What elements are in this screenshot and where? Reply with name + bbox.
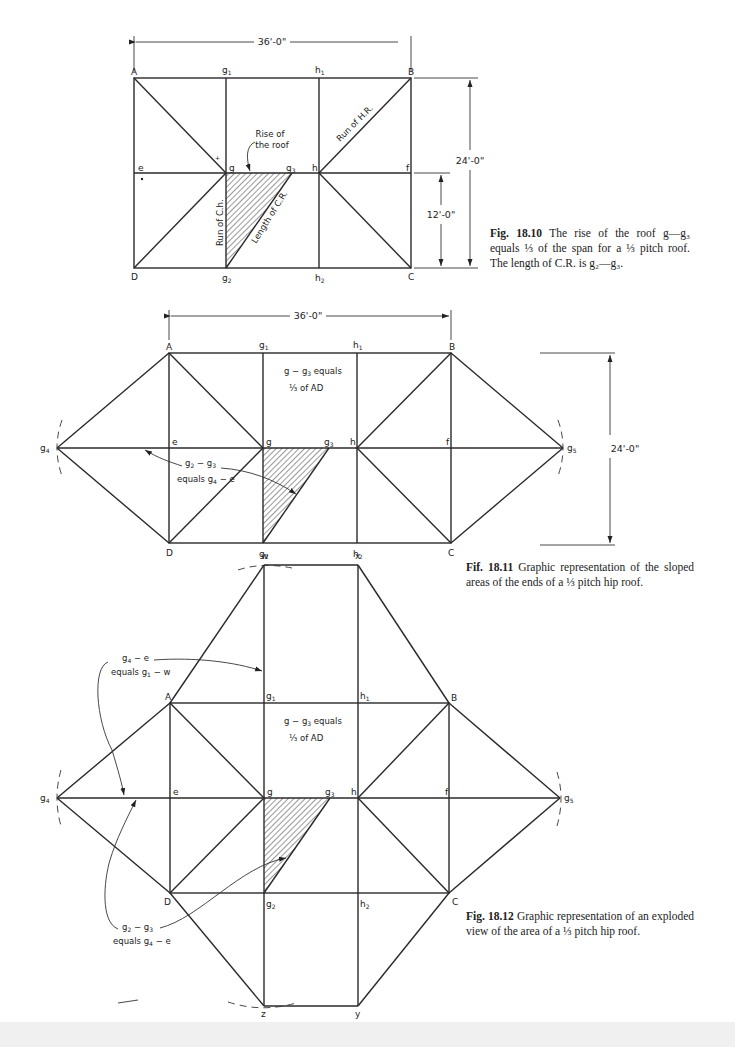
point-label-g2: g2	[266, 899, 276, 910]
point-label-b: B	[408, 67, 414, 77]
roof-diagrams: 36'-0" 24'-0" 12'-0" A B D C g1 h1 e g g…	[0, 0, 735, 1047]
point-label-c: C	[448, 548, 454, 558]
dimension-half-height-label: 12'-0"	[427, 209, 456, 220]
point-label-y: y	[355, 1009, 361, 1019]
point-label-h: h	[312, 163, 318, 173]
g-g3-equals-note: g − g3 equals	[284, 366, 342, 377]
point-label-e: e	[138, 163, 144, 173]
point-label-a: A	[166, 342, 173, 352]
point-label-g: g	[266, 437, 272, 447]
run-of-common-label: Run of C.h.	[215, 199, 225, 246]
point-label-h1: h1	[353, 340, 363, 351]
rise-of-roof-label-2: the roof	[255, 140, 289, 150]
point-label-c: C	[408, 272, 414, 282]
point-label-g4: g4	[40, 793, 50, 804]
svg-text:+: +	[215, 154, 220, 161]
g2-g3-equals-note: g2 − g3	[122, 922, 153, 933]
point-label-h: h	[350, 437, 356, 447]
point-label-g1: g1	[266, 691, 276, 702]
page-bottom-shadow	[0, 1022, 735, 1047]
point-label-c: C	[452, 897, 458, 907]
dimension-width-label: 36'-0"	[294, 310, 323, 321]
point-label-h1: h1	[360, 691, 370, 702]
dimension-height-label: 24'-0"	[611, 443, 640, 454]
equals-g1-w-note: equals g1 − w	[111, 667, 170, 678]
point-label-b: B	[451, 693, 457, 703]
point-label-d: D	[131, 272, 138, 282]
g4-e-equals-note: g4 − e	[122, 653, 149, 664]
point-label-a: A	[165, 692, 172, 702]
point-label-h1: h1	[315, 65, 325, 76]
dimension-height-label: 24'-0"	[456, 155, 485, 166]
caption-number: Fig. 18.12	[466, 910, 514, 922]
caption-fig-18-11: Fif. 18.11 Graphic representation of the…	[466, 560, 694, 590]
point-label-g5: g5	[564, 793, 574, 804]
point-label-h2: h2	[360, 899, 370, 910]
point-label-g3: g3	[325, 787, 335, 798]
point-label-g: g	[267, 787, 273, 797]
point-label-h2: h2	[315, 273, 325, 284]
point-label-w: w	[261, 551, 268, 561]
caption-number: Fif. 18.11	[466, 561, 513, 573]
third-of-ad-note: ⅓ of AD	[289, 383, 324, 393]
point-label-x: x	[355, 551, 361, 561]
point-label-h: h	[351, 787, 357, 797]
figure-18-10-plan: 36'-0" 24'-0" 12'-0" A B D C g1 h1 e g g…	[131, 36, 484, 284]
point-label-g3: g3	[286, 163, 296, 174]
point-label-z: z	[261, 1009, 266, 1019]
point-label-e: e	[172, 437, 178, 447]
point-label-a: A	[131, 67, 138, 77]
point-label-g1: g1	[259, 340, 269, 351]
point-label-b: B	[449, 342, 455, 352]
point-label-g: g	[229, 163, 235, 173]
equals-g4-e-note: equals g4 − e	[177, 474, 235, 485]
caption-fig-18-10: Fig. 18.10 The rise of the roof g—g₃ equ…	[490, 226, 690, 271]
figure-18-12-exploded: w x z y A B D C g1 h1 e g g3 h f g4 g5 g…	[40, 551, 574, 1019]
caption-fig-18-12: Fig. 18.12 Graphic representation of an …	[466, 909, 694, 939]
dimension-width-label: 36'-0"	[258, 36, 287, 47]
point-label-e: e	[173, 787, 179, 797]
point-label-f: f	[406, 163, 410, 173]
caption-number: Fig. 18.10	[490, 227, 542, 239]
point-label-g3: g3	[324, 437, 334, 448]
run-of-hip-rafter-label: Run of H.R.	[334, 103, 374, 143]
point-label-f: f	[446, 437, 450, 447]
point-label-g2: g2	[222, 273, 232, 284]
g2-g3-equals-note: g2 − g3	[185, 458, 216, 469]
equals-g4-e-note: equals g4 − e	[113, 936, 171, 947]
point-label-d: D	[164, 897, 171, 907]
rise-of-roof-label: Rise of	[256, 129, 286, 139]
point-label-g4: g4	[40, 443, 50, 454]
point-label-d: D	[166, 548, 173, 558]
point-label-g1: g1	[222, 65, 232, 76]
g-g3-equals-note: g − g3 equals	[284, 716, 342, 727]
point-label-g5: g5	[567, 443, 577, 454]
figure-18-11-ends: 36'-0" 24'-0" A B D C g1 h1 e g g3 h f g…	[40, 310, 639, 560]
third-of-ad-note: ⅓ of AD	[289, 733, 324, 743]
